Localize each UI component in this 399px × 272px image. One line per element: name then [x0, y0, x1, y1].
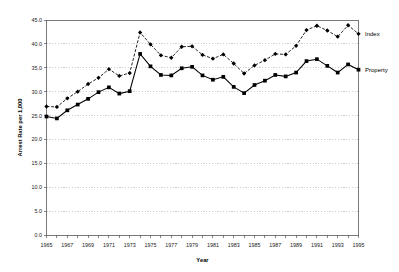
data-point	[159, 73, 163, 77]
series-markers-property	[45, 52, 361, 120]
data-point	[304, 28, 308, 32]
data-point	[55, 105, 59, 109]
data-point	[263, 79, 267, 83]
xtick-label-1975: 1975	[145, 242, 157, 248]
x-axis-title: Year	[196, 257, 209, 263]
data-point	[138, 52, 142, 56]
xtick-label-1985: 1985	[249, 242, 261, 248]
data-point	[325, 64, 329, 68]
data-point	[44, 104, 48, 108]
data-point	[107, 67, 111, 71]
data-point	[201, 74, 205, 78]
data-point	[211, 57, 215, 61]
data-point	[86, 97, 90, 101]
data-point	[65, 96, 69, 100]
data-point	[315, 57, 319, 61]
data-point	[294, 71, 298, 75]
data-point	[294, 44, 298, 48]
data-point	[211, 78, 215, 82]
ytick-label-10.0: 10.0	[32, 184, 43, 190]
ytick-label-0.0: 0.0	[35, 232, 43, 238]
data-point	[232, 85, 236, 89]
data-point	[180, 66, 184, 70]
xtick-label-1991: 1991	[311, 242, 323, 248]
plot-frame	[47, 20, 359, 235]
series-labels-group: IndexProperty	[365, 31, 388, 73]
xtick-label-1981: 1981	[207, 242, 219, 248]
data-point	[65, 108, 69, 112]
data-point	[346, 23, 350, 27]
data-point	[305, 59, 309, 63]
xtick-label-1979: 1979	[186, 242, 198, 248]
data-point	[169, 74, 173, 78]
y-axis-title: Arrest Rate per 1,000	[17, 98, 23, 156]
ytick-label-30.0: 30.0	[32, 89, 43, 95]
data-point	[107, 86, 111, 90]
data-point	[97, 90, 101, 94]
xtick-label-1993: 1993	[332, 242, 344, 248]
xtick-label-1995: 1995	[353, 242, 365, 248]
data-point	[263, 58, 267, 62]
xtick-label-1965: 1965	[41, 242, 53, 248]
data-point	[336, 71, 340, 75]
data-point	[149, 64, 153, 68]
series-line-index	[47, 25, 359, 107]
data-point	[76, 103, 80, 107]
data-point	[284, 52, 288, 56]
xtick-label-1983: 1983	[228, 242, 240, 248]
xtick-label-1969: 1969	[82, 242, 94, 248]
gridlines-group	[47, 20, 359, 211]
data-point	[221, 75, 225, 79]
series-label-property: Property	[365, 67, 388, 73]
data-point	[356, 32, 360, 36]
data-point	[346, 63, 350, 67]
ytick-label-20.0: 20.0	[32, 136, 43, 142]
data-point	[190, 65, 194, 69]
ytick-label-15.0: 15.0	[32, 160, 43, 166]
xtick-label-1967: 1967	[61, 242, 73, 248]
arrest-rate-line-chart: 0.05.010.015.020.025.030.035.040.045.019…	[0, 0, 399, 272]
ytick-label-40.0: 40.0	[32, 41, 43, 47]
data-point	[284, 75, 288, 79]
data-point	[117, 92, 121, 96]
series-group	[44, 23, 360, 120]
y-axis-ticks: 0.05.010.015.020.025.030.035.040.045.0	[32, 17, 47, 238]
data-point	[128, 89, 132, 93]
ytick-label-25.0: 25.0	[32, 113, 43, 119]
data-point	[96, 76, 100, 80]
data-point	[117, 74, 121, 78]
data-point	[55, 117, 59, 121]
data-point	[273, 73, 277, 77]
data-point	[45, 115, 49, 119]
ytick-label-35.0: 35.0	[32, 65, 43, 71]
x-axis-ticks: 1965196719691971197319751977197919811983…	[41, 235, 365, 248]
xtick-label-1989: 1989	[290, 242, 302, 248]
data-point	[315, 24, 319, 28]
data-point	[128, 71, 132, 75]
xtick-label-1971: 1971	[103, 242, 115, 248]
data-point	[138, 30, 142, 34]
data-point	[325, 28, 329, 32]
data-point	[357, 68, 361, 72]
data-point	[253, 83, 257, 87]
data-point	[169, 56, 173, 60]
series-line-property	[47, 54, 359, 119]
ytick-label-5.0: 5.0	[35, 208, 43, 214]
xtick-label-1977: 1977	[165, 242, 177, 248]
ytick-label-45.0: 45.0	[32, 17, 43, 23]
data-point	[159, 53, 163, 57]
data-point	[242, 91, 246, 95]
series-label-index: Index	[365, 31, 380, 37]
data-point	[273, 52, 277, 56]
chart-canvas: 0.05.010.015.020.025.030.035.040.045.019…	[0, 0, 399, 272]
xtick-label-1973: 1973	[124, 242, 136, 248]
xtick-label-1987: 1987	[269, 242, 281, 248]
